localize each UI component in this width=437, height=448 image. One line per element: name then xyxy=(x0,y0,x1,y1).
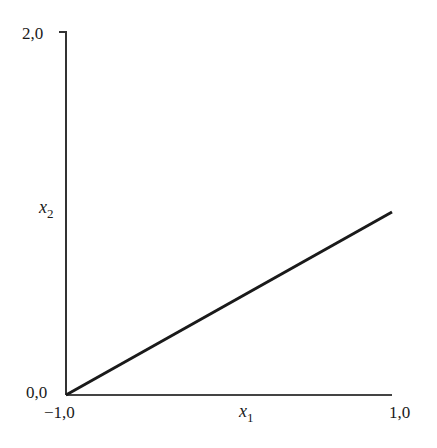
y-axis-label-main: x xyxy=(39,197,47,217)
y-axis-label: x2 xyxy=(39,198,54,220)
y-tick-top: 2,0 xyxy=(22,25,43,42)
x-tick-right: 1,0 xyxy=(389,404,410,421)
data-line xyxy=(66,212,392,395)
chart-canvas xyxy=(0,0,437,448)
y-tick-bottom: 0,0 xyxy=(26,384,47,401)
x-axis-label-sub: 1 xyxy=(247,410,254,425)
x-tick-left: −1,0 xyxy=(44,404,75,421)
x-axis-label: x1 xyxy=(239,402,254,424)
y-axis-label-sub: 2 xyxy=(47,206,54,221)
x-axis-label-main: x xyxy=(239,401,247,421)
